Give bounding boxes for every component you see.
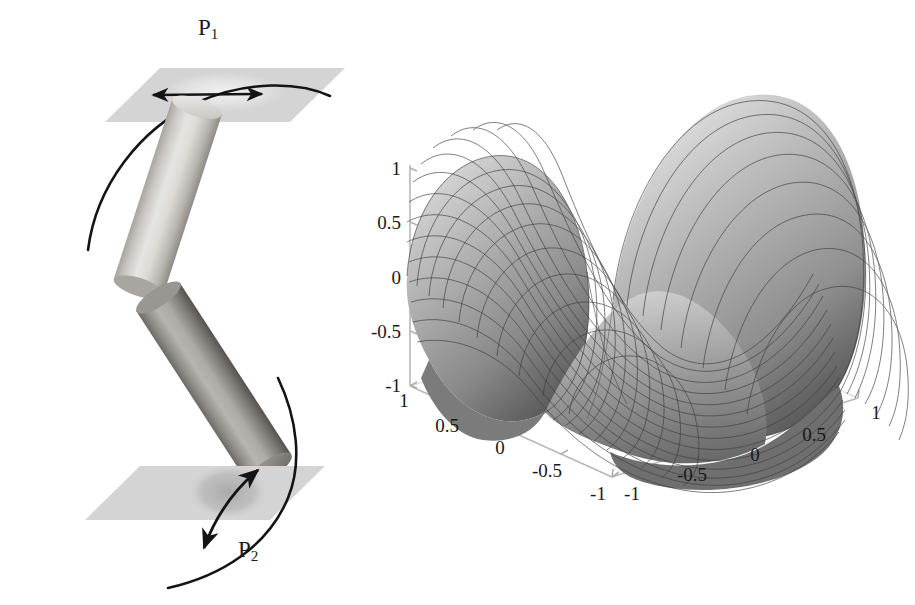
plane-p2-label: P2 bbox=[238, 538, 258, 563]
plane-p2-label-sub: 2 bbox=[251, 547, 259, 564]
plane-p2-label-main: P bbox=[238, 537, 251, 562]
z-tick-label-2: 0 bbox=[392, 268, 402, 287]
x-tick-label-3: -0.5 bbox=[532, 461, 562, 480]
linkage-diagram bbox=[0, 0, 400, 605]
x-tick-label-4: -1 bbox=[590, 484, 606, 503]
plane-p1-label: P1 bbox=[198, 16, 218, 41]
y-tick-label-2: 0 bbox=[750, 445, 760, 464]
y-tick-label-4: 1 bbox=[871, 403, 881, 422]
y-tick-label-3: 0.5 bbox=[802, 425, 826, 444]
linkage-panel: P1 P2 bbox=[0, 0, 400, 605]
surface-panel: 1 0.5 0 -0.5 -1 1 0.5 0 -0.5 -1 -1 -0.5 … bbox=[355, 0, 915, 605]
z-tick-label-1: 0.5 bbox=[377, 213, 401, 232]
x-tick-label-1: 0.5 bbox=[435, 416, 459, 435]
z-tick-label-3: -0.5 bbox=[371, 322, 401, 341]
plane-p1-label-sub: 1 bbox=[211, 25, 219, 42]
y-tick-label-0: -1 bbox=[624, 484, 640, 503]
upper-link bbox=[111, 91, 224, 304]
lower-link bbox=[132, 276, 297, 491]
x-tick-label-2: 0 bbox=[495, 438, 505, 457]
z-tick-label-0: 1 bbox=[392, 159, 402, 178]
saddle-surface bbox=[407, 94, 909, 492]
y-tick-label-1: -0.5 bbox=[677, 465, 707, 484]
figure-root: P1 P2 bbox=[0, 0, 915, 605]
surface-plot bbox=[355, 0, 915, 605]
translation-arrow bbox=[153, 94, 262, 95]
plane-p1-label-main: P bbox=[198, 15, 211, 40]
x-tick-label-0: 1 bbox=[399, 391, 409, 410]
